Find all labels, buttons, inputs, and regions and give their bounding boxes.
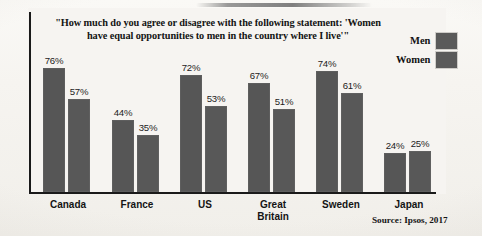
bar-value-men-sweden: 74%	[310, 58, 344, 69]
x-tick-label-japan-line-1: Japan	[395, 199, 424, 210]
bar-women-sweden[interactable]	[341, 93, 363, 192]
bar-value-women-france: 35%	[131, 122, 165, 133]
x-tick-label-us-line-1: US	[198, 199, 212, 210]
x-tick-label-great-britain-line-2: Britain	[257, 211, 289, 222]
x-tick-label-france-line-1: France	[121, 199, 154, 210]
bar-women-us[interactable]	[205, 106, 227, 192]
bars-layer: 76% 57% Canada 44% 35% France 72% 53% US…	[0, 0, 482, 236]
x-tick-label-canada: Canada	[33, 199, 103, 211]
bar-value-women-japan: 25%	[403, 138, 437, 149]
bar-value-men-great-britain: 67%	[242, 70, 276, 81]
x-tick-label-sweden-line-1: Sweden	[322, 199, 360, 210]
bar-men-japan[interactable]	[384, 153, 406, 192]
x-tick-label-canada-line-1: Canada	[50, 199, 86, 210]
bar-value-women-us: 53%	[199, 93, 233, 104]
x-tick-label-great-britain: Great Britain	[238, 199, 308, 222]
source-attribution: Source: Ipsos, 2017	[372, 215, 448, 225]
bar-value-men-france: 44%	[106, 107, 140, 118]
bar-value-men-us: 72%	[174, 62, 208, 73]
x-tick-label-japan: Japan	[374, 199, 444, 211]
bar-value-women-great-britain: 51%	[267, 96, 301, 107]
x-tick-label-great-britain-line-1: Great	[260, 199, 286, 210]
bar-women-japan[interactable]	[409, 151, 431, 192]
bar-value-men-canada: 76%	[37, 55, 71, 66]
bar-value-women-canada: 57%	[62, 86, 96, 97]
bar-value-women-sweden: 61%	[335, 80, 369, 91]
bar-women-great-britain[interactable]	[273, 109, 295, 192]
x-tick-label-sweden: Sweden	[306, 199, 376, 211]
x-tick-label-france: France	[102, 199, 172, 211]
chart-figure: "How much do you agree or disagree with …	[0, 0, 482, 236]
bar-women-canada[interactable]	[68, 99, 90, 192]
bar-women-france[interactable]	[137, 135, 159, 192]
x-tick-label-us: US	[170, 199, 240, 211]
